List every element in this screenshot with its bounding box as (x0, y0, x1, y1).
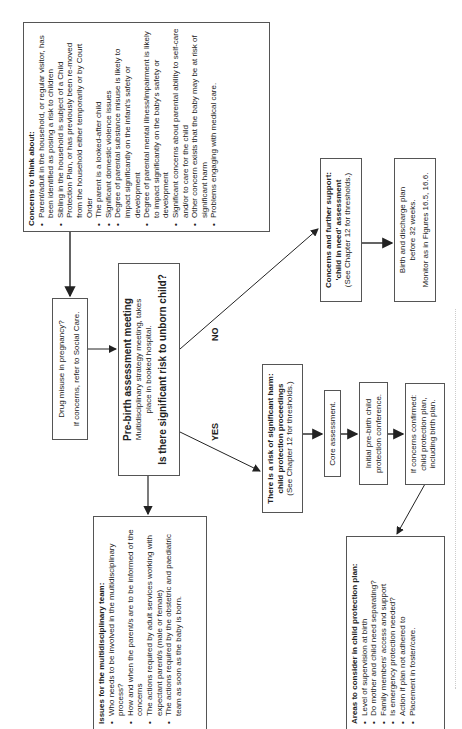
figure-caption-faint (450, 309, 457, 689)
concern-item: Sibling in the household is subject of a… (56, 28, 94, 226)
significant-harm-note: (See Chapter 12 for thresholds.) (285, 370, 295, 507)
drug-misuse-question: Drug misuse in pregnancy? (57, 304, 67, 434)
initial-conference-text: Initial pre-birth child protection confe… (364, 394, 383, 473)
core-assessment-box: Core assessment. (324, 390, 341, 477)
concern-item: The parent is a looked-after child (94, 28, 104, 226)
concerns-list: Parent/adult in the household, or regula… (37, 28, 219, 226)
significant-harm-box: There is a risk of significant harm: chi… (262, 364, 303, 513)
initial-conference-box: Initial pre-birth child protection confe… (359, 382, 388, 485)
issues-title: Issues for the multidisciplinary team: (97, 522, 107, 724)
child-in-need-note: (See Chapter 12 for thresholds.) (343, 164, 353, 296)
birth-plan-text: Birth and discharge plan before 32 weeks… (398, 164, 417, 296)
concern-item: Significant domestic violence issues (104, 28, 114, 226)
significant-harm-title: There is a risk of significant harm: chi… (266, 370, 285, 507)
concerns-confirmed-text: If concerns confirmed: child protection … (409, 395, 437, 474)
concern-item: Significant concerns about parental abil… (171, 28, 190, 226)
concerns-confirmed-box: If concerns confirmed: child protection … (405, 383, 445, 485)
area-item: Is emergency protection needed? (388, 542, 398, 724)
no-label: NO (210, 328, 220, 342)
child-in-need-box: Concerns and further support: 'child in … (320, 158, 362, 302)
core-assessment-text: Core assessment. (328, 401, 337, 465)
issues-list: Who needs to be involved in the multidis… (107, 522, 184, 724)
issue-item: How and when the parent/s are to be info… (126, 522, 145, 724)
flowchart-canvas: Concerns to think about: Parent/adult in… (0, 0, 462, 729)
yes-label: YES (210, 423, 220, 441)
child-in-need-title: Concerns and further support: (324, 164, 334, 296)
area-item: Do mother and child need separating? (369, 542, 379, 724)
issue-item: The actions required by the obstetric an… (164, 522, 183, 724)
prebirth-meeting-box: Pre-birth assessment meeting Multidiscip… (118, 263, 180, 476)
area-item: Family members' access and support (379, 542, 389, 724)
concern-item: Degree of parental mental illness/impair… (142, 28, 171, 226)
area-item: Action if plan not adhered to (398, 542, 408, 724)
child-in-need-subtitle: 'child in need' assessment (334, 164, 344, 296)
area-item: Level of supervision at birth (360, 542, 370, 724)
monitor-text: Monitor as in Figures 16.5, 16.6. (421, 164, 431, 296)
birth-plan-box: Birth and discharge plan before 32 weeks… (394, 158, 436, 302)
issue-item: The actions required by adult services w… (145, 522, 164, 724)
concerns-box: Concerns to think about: Parent/adult in… (23, 22, 270, 232)
concern-item: Parent/adult in the household, or regula… (37, 28, 56, 226)
concerns-title: Concerns to think about: (27, 28, 37, 226)
concern-item: Other concern exists that the baby may b… (190, 28, 209, 226)
issues-box: Issues for the multidisciplinary team: W… (93, 516, 207, 729)
prebirth-subtitle: Multidisciplinary strategy meeting, take… (134, 269, 153, 470)
prebirth-title: Pre-birth assessment meeting (122, 269, 134, 470)
area-item: Placement in foster/care. (408, 542, 418, 724)
drug-misuse-box: Drug misuse in pregnancy? If concerns, r… (52, 298, 88, 440)
areas-box: Areas to consider in child protection pl… (346, 536, 445, 729)
issue-item: Who needs to be involved in the multidis… (107, 522, 126, 724)
concern-item: Degree of parental substance misuse is l… (113, 28, 142, 226)
areas-title: Areas to consider in child protection pl… (350, 542, 360, 724)
prebirth-question: Is there significant risk to unborn chil… (157, 269, 169, 470)
concern-item: Problems engaging with medical care. (209, 28, 219, 226)
drug-misuse-action: If concerns, refer to Social Care. (72, 304, 82, 434)
areas-list: Level of supervision at birth Do mother … (360, 542, 418, 724)
